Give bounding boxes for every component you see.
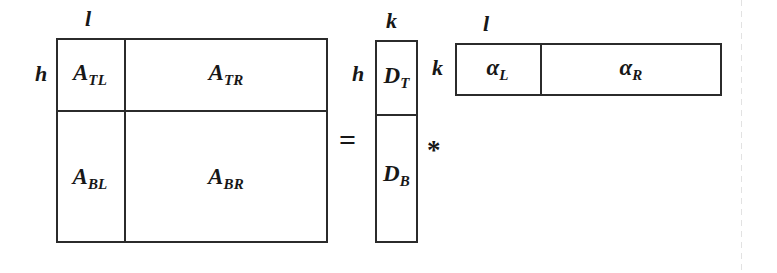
scan-artifact-line xyxy=(741,0,742,273)
matrix-alpha-block-l-base: α xyxy=(486,55,499,80)
matrix-alpha-block-r-sub: R xyxy=(632,67,642,83)
matrix-alpha-block-r-base: α xyxy=(620,55,633,80)
matrix-d-block-t-base: D xyxy=(384,63,401,88)
figure-canvas: l h ATL ATR ABL ABR = k h DT xyxy=(0,0,777,273)
matrix-a-block-tr: ATR xyxy=(124,38,328,110)
matrix-a-col-dim-label: l xyxy=(85,8,91,30)
matrix-a-block-bl-base: A xyxy=(73,164,88,189)
matrix-alpha-block-l-sub: L xyxy=(499,67,508,83)
matrix-alpha-row-dim-label: k xyxy=(432,57,443,79)
matrix-a-block-tl-sub: TL xyxy=(88,71,107,87)
matrix-a-block-tr-base: A xyxy=(209,60,224,85)
matrix-d-block-b-sub: B xyxy=(400,173,410,189)
matrix-alpha-block-l: αL xyxy=(455,43,540,96)
matrix-a-block-br-sub: BR xyxy=(223,176,243,192)
equals-operator: = xyxy=(339,125,356,155)
matrix-a-block-tl-base: A xyxy=(73,60,88,85)
matrix-alpha-block-r: αR xyxy=(540,43,722,96)
matrix-d-block-t: DT xyxy=(375,40,418,114)
multiply-operator: * xyxy=(427,137,441,164)
matrix-a-block-tr-sub: TR xyxy=(224,71,244,87)
matrix-a-block-tl: ATL xyxy=(56,38,124,110)
matrix-d-col-dim-label: k xyxy=(386,10,397,32)
matrix-a-block-br: ABR xyxy=(124,110,328,243)
matrix-a-row-dim-label: h xyxy=(35,63,47,85)
matrix-d-block-t-sub: T xyxy=(400,74,409,90)
matrix-a-block-bl-sub: BL xyxy=(88,176,108,192)
matrix-d-row-dim-label: h xyxy=(352,63,364,85)
matrix-a-block-bl: ABL xyxy=(56,110,124,243)
matrix-alpha-col-dim-label: l xyxy=(483,13,489,35)
matrix-d-block-b-base: D xyxy=(383,161,400,186)
matrix-a-block-br-base: A xyxy=(208,164,223,189)
matrix-d-block-b: DB xyxy=(375,114,418,243)
